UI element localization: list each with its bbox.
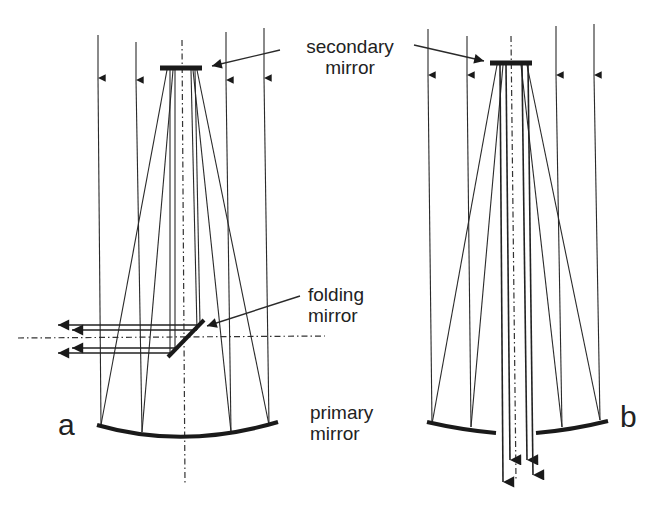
primary-label-line2: mirror: [310, 423, 386, 444]
secondary-label-line2: mirror: [288, 57, 412, 78]
primary-mirror-label: primary mirror: [310, 402, 386, 444]
secondary-pointer-b: [414, 45, 484, 61]
folding-label-line2: mirror: [308, 305, 378, 326]
primary-mirror-b-right: [536, 421, 608, 433]
panel-b: [414, 24, 608, 482]
optical-axis-vertical-b: [511, 36, 516, 480]
converging-rays-a: [101, 70, 269, 432]
secondary-label-line1: secondary: [288, 36, 412, 57]
secondary-mirror-label: secondary mirror: [288, 36, 412, 78]
panel-b-letter: b: [620, 402, 637, 432]
primary-mirror-a: [97, 422, 278, 437]
converging-rays-b: [432, 65, 600, 427]
optical-axis-vertical-a: [182, 40, 185, 485]
secondary-to-fold-rays-a: [170, 70, 200, 353]
optical-axis-horizontal-a: [18, 336, 325, 338]
panel-a-letter: a: [58, 410, 75, 440]
primary-label-line1: primary: [310, 402, 386, 423]
output-rays-b: [500, 65, 533, 482]
incoming-rays-b: [428, 24, 600, 427]
folding-mirror-label: folding mirror: [308, 284, 378, 326]
folding-label-line1: folding: [308, 284, 378, 305]
primary-mirror-b-left: [427, 422, 496, 433]
